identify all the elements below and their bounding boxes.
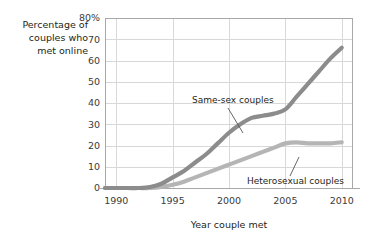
annotation-label-same-sex: Same-sex couples	[192, 95, 274, 105]
x-axis-title: Year couple met	[190, 219, 268, 230]
y-tick-label-0: 0	[94, 182, 100, 193]
line-chart: 01020304050607080% 19901995200020052010 …	[0, 0, 365, 236]
y-axis-title-line-1: Percentage of	[22, 19, 88, 30]
x-tick-label-2000: 2000	[217, 195, 241, 206]
x-tick-label-2005: 2005	[273, 195, 297, 206]
annotation-label-heterosexual: Heterosexual couples	[247, 176, 344, 186]
x-tick-label-2010: 2010	[330, 195, 354, 206]
y-axis-title-line-2: couples who	[29, 32, 88, 43]
chart-container: 01020304050607080% 19901995200020052010 …	[0, 0, 365, 236]
y-tick-label-60: 60	[88, 55, 100, 66]
x-tick-label-1995: 1995	[161, 195, 185, 206]
y-tick-label-30: 30	[88, 119, 100, 130]
x-tick-label-1990: 1990	[104, 195, 128, 206]
y-tick-label-50: 50	[88, 76, 100, 87]
y-tick-label-10: 10	[88, 161, 100, 172]
y-tick-label-40: 40	[88, 97, 100, 108]
y-axis-title-line-3: met online	[37, 45, 88, 56]
y-tick-label-70: 70	[88, 34, 100, 45]
y-tick-label-20: 20	[88, 140, 100, 151]
